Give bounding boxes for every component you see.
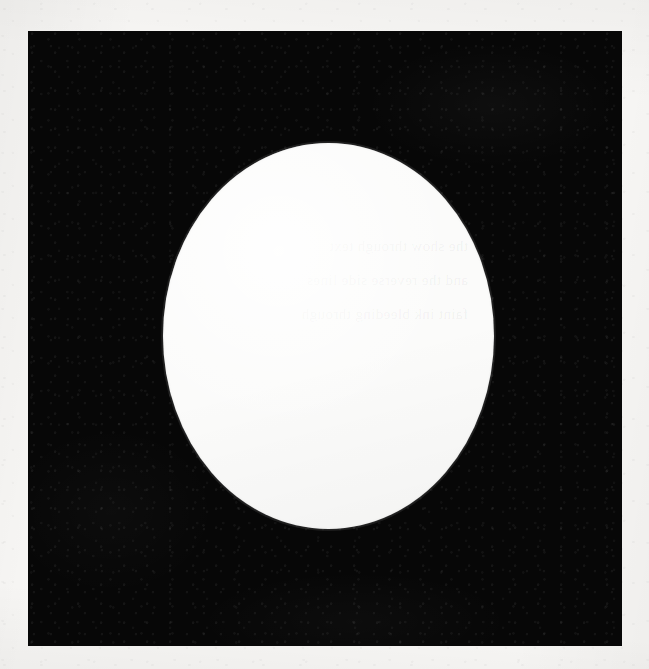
ellipse-shading-overlay — [163, 143, 494, 529]
white-ellipse-shape: the show through text and the reverse si… — [163, 143, 494, 529]
black-rectangle-field: the show through text and the reverse si… — [28, 31, 622, 646]
scanned-page: the show through text and the reverse si… — [0, 0, 649, 669]
ghost-showthrough-text: the show through text and the reverse si… — [163, 143, 494, 529]
